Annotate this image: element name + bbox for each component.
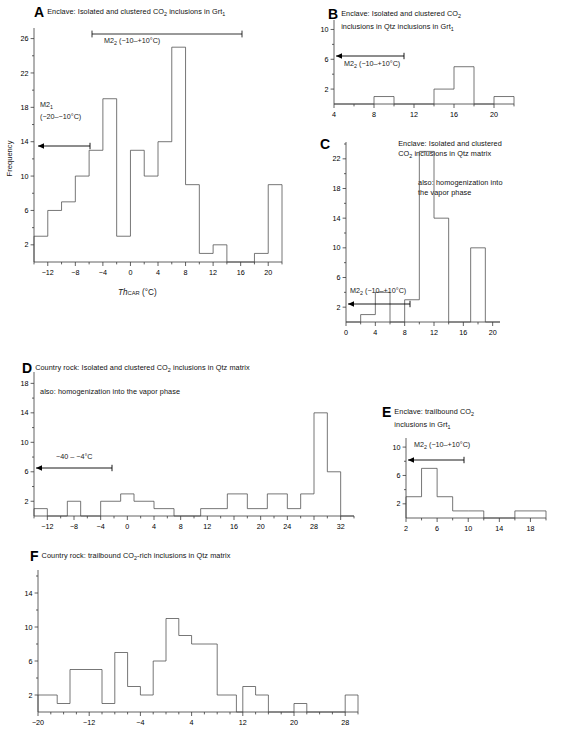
x-tick-label: −12 bbox=[41, 522, 53, 531]
y-tick-label: 10 bbox=[333, 243, 341, 252]
x-tick-label: 20 bbox=[290, 718, 298, 727]
x-tick-label: −8 bbox=[71, 268, 79, 277]
y-tick-label: 2 bbox=[337, 303, 341, 312]
x-tick-label: 20 bbox=[490, 110, 498, 119]
panel-f: F Country rock: trailbound CO2-rich incl… bbox=[0, 548, 400, 738]
x-tick-label: 0 bbox=[128, 268, 132, 277]
x-tick-label: 8 bbox=[179, 522, 183, 531]
y-tick-label: 18 bbox=[21, 103, 29, 112]
y-tick-label: 6 bbox=[397, 471, 401, 480]
x-tick-label: 32 bbox=[337, 522, 345, 531]
y-tick-label: 26 bbox=[21, 34, 29, 43]
panel-a-annotation-m22: M22 (−10–+10°C) bbox=[104, 36, 254, 52]
y-tick-label: 14 bbox=[21, 408, 29, 417]
y-tick-label: 2 bbox=[25, 240, 29, 249]
x-tick-label: 20 bbox=[257, 522, 265, 531]
y-tick-label: 14 bbox=[21, 137, 29, 146]
x-tick-label: 8 bbox=[372, 110, 376, 119]
x-tick-label: 16 bbox=[450, 110, 458, 119]
x-tick-label: 4 bbox=[190, 718, 194, 727]
panel-a: A Enclave: Isolated and clustered CO2 in… bbox=[0, 4, 300, 304]
panel-e: E Enclave: trailbound CO2inclusions in G… bbox=[378, 404, 561, 540]
y-tick-label: 14 bbox=[333, 214, 341, 223]
y-tick-label: 6 bbox=[337, 273, 341, 282]
panel-a-x-axis-label: ThCAR (°C) bbox=[118, 288, 157, 297]
x-tick-label: −4 bbox=[136, 718, 144, 727]
histogram-outline bbox=[34, 47, 282, 262]
panel-c-plot: 2610141822048121620M22 (−10–+10°C) bbox=[290, 136, 550, 348]
y-tick-label: 2 bbox=[29, 691, 33, 700]
x-tick-label: 14 bbox=[495, 524, 503, 533]
panel-d-plot: 26101418−12−8−4048121620242832−40 – −4°C bbox=[0, 368, 390, 538]
panel-d-svg: 26101418−12−8−4048121620242832−40 – −4°C bbox=[0, 368, 390, 538]
y-tick-label: 10 bbox=[21, 438, 29, 447]
y-tick-label: 14 bbox=[25, 589, 33, 598]
x-tick-label: 4 bbox=[152, 522, 156, 531]
x-tick-label: 6 bbox=[435, 524, 439, 533]
panel-d-annotation-range: −40 – −4°C bbox=[56, 452, 166, 466]
x-tick-label: 12 bbox=[410, 110, 418, 119]
x-tick-label: 28 bbox=[341, 718, 349, 727]
histogram-outline bbox=[406, 468, 546, 518]
panel-a-letter: A bbox=[34, 4, 44, 20]
x-tick-label: 12 bbox=[239, 718, 247, 727]
panel-d: D Country rock: Isolated and clustered C… bbox=[0, 360, 400, 540]
panel-b-plot: 261048121620M22 (−10–+10°C) bbox=[300, 8, 550, 128]
x-tick-label: 0 bbox=[125, 522, 129, 531]
x-tick-label: 18 bbox=[526, 524, 534, 533]
y-tick-label: 10 bbox=[393, 443, 401, 452]
x-tick-label: −8 bbox=[70, 522, 78, 531]
panel-e-svg: 261026101418M22 (−10–+10°C) bbox=[378, 426, 558, 536]
panel-a-title: Enclave: Isolated and clustered CO2 incl… bbox=[44, 4, 225, 20]
x-tick-label: 24 bbox=[283, 522, 291, 531]
panel-c: C Enclave: Isolated and clusteredCO2 inc… bbox=[290, 136, 561, 351]
y-tick-label: 22 bbox=[333, 154, 341, 163]
panel-b: B Enclave: Isolated and clustered CO2inc… bbox=[300, 6, 561, 136]
annotation-left-arrow bbox=[38, 143, 90, 149]
x-tick-label: 20 bbox=[264, 268, 272, 277]
x-tick-label: 4 bbox=[332, 110, 336, 119]
x-tick-label: 12 bbox=[203, 522, 211, 531]
x-tick-label: 12 bbox=[430, 328, 438, 337]
x-tick-label: 0 bbox=[344, 328, 348, 337]
panel-a-plot: 261014182226−12−8−4048121620M21(−20–−10°… bbox=[0, 22, 300, 292]
y-tick-label: 18 bbox=[333, 184, 341, 193]
y-tick-label: 2 bbox=[25, 497, 29, 506]
y-tick-label: 6 bbox=[25, 206, 29, 215]
panel-e-letter: E bbox=[382, 404, 391, 420]
panel-f-plot: 261014−20−12−44122028 bbox=[0, 558, 390, 733]
x-tick-label: 16 bbox=[459, 328, 467, 337]
y-tick-label: 10 bbox=[21, 172, 29, 181]
panel-a-svg: 261014182226−12−8−4048121620M21(−20–−10°… bbox=[0, 22, 300, 292]
panel-b-svg: 261048121620M22 (−10–+10°C) bbox=[300, 8, 550, 128]
x-tick-label: −4 bbox=[99, 268, 107, 277]
x-tick-label: 12 bbox=[209, 268, 217, 277]
y-tick-label: 2 bbox=[397, 499, 401, 508]
y-tick-label: 6 bbox=[29, 657, 33, 666]
y-tick-label: 10 bbox=[321, 25, 329, 34]
panel-c-svg: 2610141822048121620M22 (−10–+10°C) bbox=[290, 136, 550, 348]
panel-c-annotation-m22: M22 (−10–+10°C) bbox=[350, 286, 500, 302]
x-tick-label: 8 bbox=[184, 268, 188, 277]
panel-f-svg: 261014−20−12−44122028 bbox=[0, 558, 390, 733]
panel-e-plot: 261026101418M22 (−10–+10°C) bbox=[378, 426, 558, 536]
x-tick-label: 20 bbox=[489, 328, 497, 337]
panel-a-annotation-m21: M21(−20–−10°C) bbox=[40, 100, 150, 134]
y-tick-label: 2 bbox=[325, 85, 329, 94]
y-tick-label: 6 bbox=[325, 55, 329, 64]
x-tick-label: 10 bbox=[464, 524, 472, 533]
x-tick-label: 4 bbox=[156, 268, 160, 277]
y-tick-label: 22 bbox=[21, 69, 29, 78]
y-tick-label: 18 bbox=[21, 379, 29, 388]
x-tick-label: 16 bbox=[230, 522, 238, 531]
x-tick-label: −20 bbox=[32, 718, 44, 727]
x-tick-label: 4 bbox=[373, 328, 377, 337]
x-tick-label: 16 bbox=[237, 268, 245, 277]
x-tick-label: −4 bbox=[97, 522, 105, 531]
y-tick-label: 10 bbox=[25, 623, 33, 632]
panel-e-annotation-m22: M22 (−10–+10°C) bbox=[414, 440, 554, 456]
x-tick-label: −12 bbox=[42, 268, 54, 277]
y-tick-label: 6 bbox=[25, 467, 29, 476]
x-tick-label: 2 bbox=[404, 524, 408, 533]
x-tick-label: 28 bbox=[310, 522, 318, 531]
